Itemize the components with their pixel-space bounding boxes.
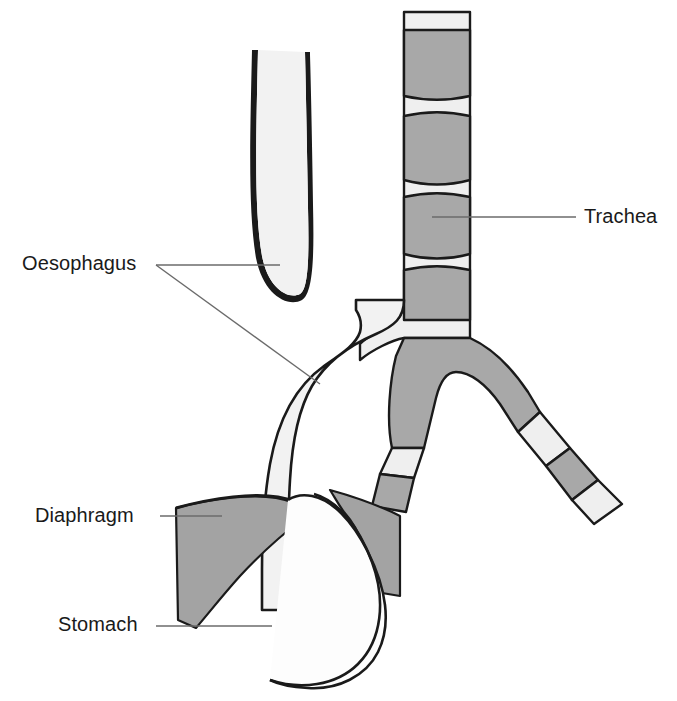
airway-group <box>360 12 622 524</box>
anatomy-illustration <box>0 0 677 701</box>
trachea-cartilage-ring-4 <box>404 266 470 320</box>
trachea-cartilage-ring-2 <box>404 112 470 184</box>
label-trachea: Trachea <box>584 205 657 228</box>
trachea-cartilage-ring-3 <box>404 193 470 258</box>
label-oesophagus: Oesophagus <box>22 252 136 275</box>
label-stomach: Stomach <box>58 613 138 636</box>
trachea-cartilage-ring-1 <box>404 30 470 100</box>
left-main-bronchus-lumen <box>380 448 424 478</box>
diagram-canvas: Oesophagus Trachea Diaphragm Stomach <box>0 0 677 701</box>
label-diaphragm: Diaphragm <box>35 504 134 527</box>
upper-oesophageal-pouch-fill <box>256 50 308 295</box>
